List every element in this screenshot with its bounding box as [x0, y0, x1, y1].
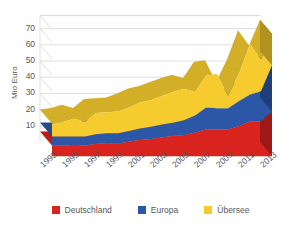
legend-label: Deutschland	[65, 205, 112, 215]
legend-swatch-icon	[204, 206, 212, 214]
legend-swatch-icon	[52, 206, 60, 214]
legend-label: Europa	[151, 205, 178, 215]
legend-item-deutschland[interactable]: Deutschland	[52, 205, 112, 215]
legend-item-europa[interactable]: Europa	[138, 205, 178, 215]
plot-area	[0, 0, 301, 226]
legend-item-bersee[interactable]: Übersee	[204, 205, 249, 215]
chart-legend: DeutschlandEuropaÜbersee	[0, 201, 301, 219]
legend-label: Übersee	[217, 205, 249, 215]
chart-container: Mio Euro 10203040506070 1993199519971999…	[0, 0, 301, 226]
legend-swatch-icon	[138, 206, 146, 214]
